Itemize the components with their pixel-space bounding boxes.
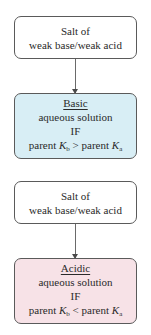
result-line-if: IF — [71, 124, 81, 138]
kb-subscript: b — [66, 310, 70, 318]
source-line-1: Salt of — [61, 24, 90, 38]
source-line-1: Salt of — [61, 189, 90, 203]
less-than-operator: < — [73, 304, 79, 316]
down-arrow-2 — [75, 224, 76, 258]
condition-right-prefix: parent — [82, 139, 109, 151]
kb-subscript: b — [66, 145, 70, 153]
condition-acidic: parent Kb < parent Ka — [29, 303, 122, 321]
result-title-basic: Basic — [63, 96, 87, 110]
result-title-acidic: Acidic — [61, 261, 90, 275]
source-line-2: weak base/weak acid — [29, 38, 122, 52]
source-line-2: weak base/weak acid — [29, 203, 122, 217]
result-line-2: aqueous solution — [38, 110, 112, 124]
ka-subscript: a — [119, 145, 122, 153]
result-line-2: aqueous solution — [38, 275, 112, 289]
condition-basic: parent Kb > parent Ka — [29, 138, 122, 156]
salt-source-box-1: Salt of weak base/weak acid — [14, 16, 137, 59]
acidic-result-box: Acidic aqueous solution IF parent Kb < p… — [14, 258, 137, 324]
ka-subscript: a — [119, 310, 122, 318]
condition-left-prefix: parent — [29, 139, 56, 151]
condition-left-prefix: parent — [29, 304, 56, 316]
condition-right-prefix: parent — [82, 304, 109, 316]
basic-result-box: Basic aqueous solution IF parent Kb > pa… — [14, 93, 137, 159]
salt-source-box-2: Salt of weak base/weak acid — [14, 181, 137, 224]
greater-than-operator: > — [73, 139, 79, 151]
down-arrow-1 — [75, 59, 76, 93]
result-line-if: IF — [71, 289, 81, 303]
